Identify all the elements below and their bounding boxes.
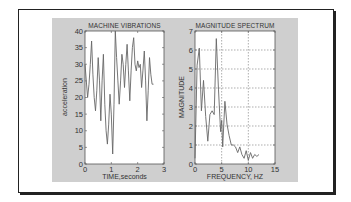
svg-text:0: 0 xyxy=(189,160,193,169)
svg-text:6: 6 xyxy=(189,46,193,55)
vibration-plot-area xyxy=(85,31,164,164)
spectrum-title: MAGNITUDE SPECTRUM xyxy=(195,22,274,29)
svg-text:5: 5 xyxy=(189,65,193,74)
svg-text:5: 5 xyxy=(220,165,224,174)
svg-text:4: 4 xyxy=(189,84,193,93)
svg-text:20: 20 xyxy=(75,93,83,102)
svg-text:15: 15 xyxy=(75,110,83,119)
svg-text:0: 0 xyxy=(79,160,83,169)
svg-text:1: 1 xyxy=(189,141,193,150)
vibration-title: MACHINE VIBRATIONS xyxy=(88,22,161,29)
svg-text:2: 2 xyxy=(136,165,140,174)
svg-text:7: 7 xyxy=(189,27,193,36)
figure-canvas: MACHINE VIBRATIONS TIME,seconds accelera… xyxy=(0,0,351,202)
svg-text:5: 5 xyxy=(79,143,83,152)
vibration-plot: MACHINE VIBRATIONS TIME,seconds accelera… xyxy=(61,22,166,180)
vibration-xlabel: TIME,seconds xyxy=(102,173,147,180)
svg-text:35: 35 xyxy=(75,43,83,52)
svg-text:3: 3 xyxy=(189,103,193,112)
svg-text:0: 0 xyxy=(193,165,197,174)
svg-text:2: 2 xyxy=(189,122,193,131)
svg-text:15: 15 xyxy=(271,165,279,174)
spectrum-xlabel: FREQUENCY, HZ xyxy=(207,173,264,181)
spectrum-ylabel: MAGNITUDE xyxy=(178,76,185,118)
svg-text:10: 10 xyxy=(75,126,83,135)
svg-text:40: 40 xyxy=(75,27,83,36)
spectrum-plot-area xyxy=(195,31,275,164)
svg-text:10: 10 xyxy=(244,165,252,174)
svg-text:25: 25 xyxy=(75,76,83,85)
vibration-ylabel: acceleration xyxy=(61,78,68,116)
spectrum-plot: MAGNITUDE SPECTRUM FREQUENCY, HZ MAGNITU… xyxy=(178,22,279,181)
svg-text:3: 3 xyxy=(162,165,166,174)
svg-text:1: 1 xyxy=(109,165,113,174)
svg-text:0: 0 xyxy=(83,165,87,174)
svg-text:30: 30 xyxy=(75,60,83,69)
